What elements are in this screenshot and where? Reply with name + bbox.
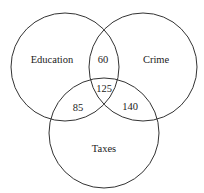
crime-circle [89, 13, 197, 121]
crime-taxes-count: 140 [122, 101, 138, 112]
education-label: Education [31, 54, 74, 65]
crime-label: Crime [143, 54, 170, 65]
education-crime-count: 60 [98, 54, 109, 65]
taxes-circle [49, 78, 159, 188]
education-circle [11, 13, 119, 121]
all-three-count: 125 [96, 83, 112, 94]
education-taxes-count: 85 [73, 102, 84, 113]
taxes-label: Taxes [92, 143, 116, 154]
venn-diagram: Education Crime Taxes 60 125 85 140 [0, 0, 204, 193]
